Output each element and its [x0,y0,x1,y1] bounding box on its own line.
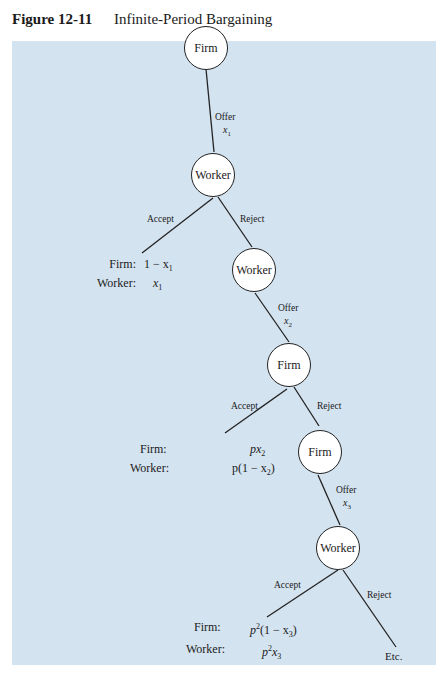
edge-label-reject-1: Reject [240,214,264,224]
edge-reject-3 [343,570,396,647]
node-label: Worker [236,263,272,278]
payoff-worker-value: p(1 − x2) [232,461,275,480]
edge-label-accept-2: Accept [231,401,258,411]
edge-offer-x3 [318,475,340,525]
payoff-firm-label: Firm: [130,442,202,461]
payoff-worker-value: p2x3 [262,642,281,664]
node-label: Worker [320,541,356,556]
payoff-firm-label: Firm: [186,620,242,642]
edge-label-reject-3: Reject [367,590,391,600]
payoff-worker-label: Worker: [82,276,136,295]
etc-terminal: Etc. [385,649,402,663]
node-label: Firm [194,41,217,56]
node-worker-2: Worker [232,248,276,292]
payoff-worker-label: Worker: [130,461,202,480]
payoff-worker-value: x1 [153,276,162,295]
payoff-worker-label: Worker: [186,642,242,664]
tree-edges [0,0,436,687]
edge-reject-2 [294,387,319,426]
edge-var-x1: x1 [223,124,231,138]
node-firm-3: Firm [298,430,342,474]
payoff-1: Firm: 1 − x1 Worker: x1 [82,257,173,296]
payoff-3: Firm: p2(1 − x3) Worker: p2x3 [186,620,297,665]
edge-label-offer-1: Offer [215,112,235,122]
edge-var-x2: x2 [284,315,292,329]
node-firm-1: Firm [184,26,228,70]
payoff-firm-value: p2(1 − x3) [250,620,297,642]
node-firm-2: Firm [267,343,311,387]
node-label: Firm [308,445,331,460]
edge-accept-2 [225,389,287,433]
edge-offer-x1 [206,69,214,152]
edge-label-offer-2: Offer [278,303,298,313]
edge-label-accept-1: Accept [147,214,174,224]
payoff-firm-value: 1 − x1 [144,257,173,276]
edge-accept-1 [142,198,213,253]
payoff-2: Firm: px2 Worker: p(1 − x2) [130,442,275,481]
node-worker-1: Worker [191,153,235,197]
edge-var-x3: x3 [343,497,351,511]
node-worker-3: Worker [316,526,360,570]
edge-accept-3 [267,570,338,617]
node-label: Worker [195,168,231,183]
node-label: Firm [277,358,300,373]
payoff-firm-label: Firm: [82,257,136,276]
edge-label-reject-2: Reject [317,401,341,411]
edge-label-accept-3: Accept [274,580,301,590]
edge-label-offer-3: Offer [336,485,356,495]
payoff-firm-value: px2 [250,442,265,461]
